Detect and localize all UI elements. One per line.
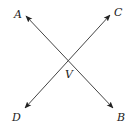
intersecting-lines-diagram: A B C D V [0,0,130,124]
label-B: B [116,111,125,124]
label-C: C [114,6,123,19]
label-vertex-V: V [65,68,74,81]
label-A: A [13,8,22,21]
label-D: D [11,111,21,124]
line-AB [26,16,113,108]
